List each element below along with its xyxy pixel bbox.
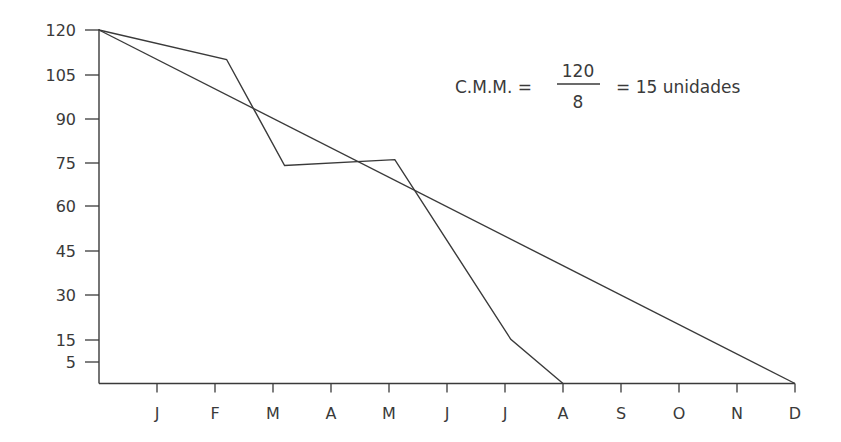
y-tick-label: 90 [56, 110, 76, 129]
y-tick-label: 45 [56, 242, 76, 261]
formula-rhs: = 15 unidades [616, 77, 740, 97]
formula-lhs: C.M.M. = [455, 77, 532, 97]
cmm-formula: C.M.M. = 120 8 = 15 unidades [455, 61, 740, 112]
y-tick-label: 30 [56, 286, 76, 305]
formula-numerator: 120 [562, 61, 594, 81]
y-tick-label: 60 [56, 197, 76, 216]
y-tick-label: 120 [45, 21, 76, 40]
x-tick-label: F [210, 404, 219, 423]
y-tick-label: 75 [56, 154, 76, 173]
x-tick-label: A [326, 404, 337, 423]
y-tick-label: 5 [66, 353, 76, 372]
y-tick-label: 15 [56, 331, 76, 350]
y-tick-label: 105 [45, 66, 76, 85]
x-tick-label: A [558, 404, 569, 423]
x-tick-label: J [444, 404, 450, 423]
x-tick-label: N [731, 404, 743, 423]
x-axis-ticks: JFMAMJJASOND [154, 384, 802, 424]
x-tick-label: S [616, 404, 626, 423]
y-axis-ticks: 1201059075604530155 [45, 21, 99, 372]
x-tick-label: O [673, 404, 686, 423]
x-tick-label: D [789, 404, 801, 423]
formula-denominator: 8 [573, 92, 584, 112]
consumption-chart: 1201059075604530155 JFMAMJJASOND C.M.M. … [0, 0, 841, 442]
x-tick-label: M [382, 404, 396, 423]
x-tick-label: J [154, 404, 160, 423]
x-tick-label: J [502, 404, 508, 423]
x-tick-label: M [266, 404, 280, 423]
